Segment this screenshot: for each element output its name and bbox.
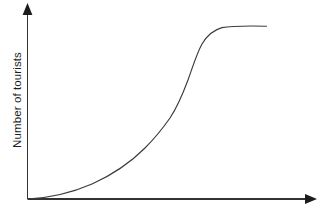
chart-canvas: Number of tourists [0,0,331,215]
y-axis-arrow-icon [23,3,33,15]
tourist-growth-curve [28,26,267,199]
x-axis-arrow-icon [305,194,317,204]
y-axis-label: Number of tourists [11,52,23,148]
tourism-growth-chart: Number of tourists [0,0,331,215]
